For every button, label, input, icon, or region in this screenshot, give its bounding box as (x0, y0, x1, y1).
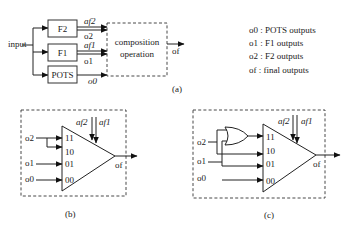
port-11-c: 11 (266, 132, 275, 142)
caption-a: (a) (172, 84, 182, 94)
legend-item-of: of : final outputs (249, 65, 309, 75)
diagram-canvas: input F2 F1 POTS af2 o2 af1 o1 o0 compos… (0, 0, 353, 233)
input-label: input (8, 39, 27, 49)
output-label-b: of (115, 160, 123, 170)
output-label-c: of (313, 159, 321, 169)
port-01-c: 01 (266, 159, 275, 169)
port-00-b: 00 (65, 175, 75, 185)
input-o0-label-b: o0 (25, 174, 35, 184)
port-10-b: 10 (65, 147, 75, 157)
panel-c: o2 o1 o0 11 10 01 00 af2 af1 of (c) (193, 110, 340, 220)
input-o1-label-c: o1 (197, 156, 206, 166)
o1-label: o1 (84, 56, 93, 66)
o0-label: o0 (88, 76, 98, 86)
af1-select-label-b: af1 (99, 117, 111, 127)
or-gate (225, 127, 248, 145)
port-01-b: 01 (65, 159, 74, 169)
legend-item-o1: o1 : F1 outputs (249, 38, 304, 48)
o2-to-10-arrow-b (47, 138, 62, 147)
input-o0-label-c: o0 (197, 173, 207, 183)
af1-label: af1 (84, 40, 96, 50)
final-output-label: of (172, 46, 180, 56)
input-o2-label-b: o2 (25, 133, 34, 143)
composition-label-line1: composition (115, 37, 160, 47)
panel-a: input F2 F1 POTS af2 o2 af1 o1 o0 compos… (8, 16, 184, 94)
af2-label: af2 (84, 16, 96, 26)
port-11-b: 11 (65, 133, 74, 143)
block-pots-label: POTS (51, 70, 73, 80)
af2-select-label-c: af2 (278, 116, 290, 126)
port-00-c: 00 (266, 176, 276, 186)
caption-c: (c) (264, 210, 274, 220)
af1-select-label-c: af1 (301, 116, 313, 126)
block-f1-label: F1 (58, 48, 68, 58)
caption-b: (b) (65, 209, 76, 219)
input-o1-label-b: o1 (25, 158, 34, 168)
legend-item-o2: o2 : F2 outputs (249, 51, 304, 61)
block-f2-label: F2 (58, 24, 68, 34)
legend-item-o0: o0 : POTS outputs (249, 25, 316, 35)
panel-b: o2 o1 o0 11 10 01 00 af2 af1 of (b) (21, 110, 137, 219)
input-o2-label-c: o2 (197, 137, 206, 147)
port-10-c: 10 (266, 146, 276, 156)
af2-select-label-b: af2 (76, 117, 88, 127)
legend: o0 : POTS outputs o1 : F1 outputs o2 : F… (249, 25, 316, 75)
composition-label-line2: operation (120, 49, 154, 59)
